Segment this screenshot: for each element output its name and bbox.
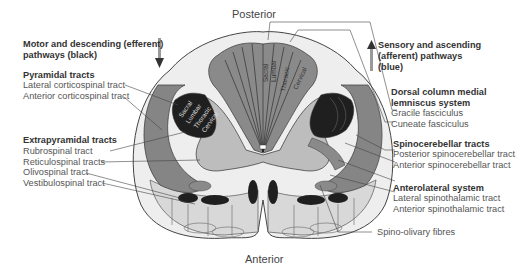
posterior-label: Posterior	[232, 8, 276, 20]
afferent-heading-line2: (afferent) pathways	[378, 51, 462, 62]
lateral-spinothalamic-label: Lateral spinothalamic tract	[393, 193, 500, 204]
vestibulospinal-right	[297, 195, 325, 205]
olivospinal-right	[315, 181, 337, 191]
extrapyramidal-tracts-title: Extrapyramidal tracts	[23, 135, 117, 146]
anterior-spinocerebellar-label: Anterior spinocerebellar tract	[393, 160, 510, 171]
vestibulospinal-label: Vestibulospinal tract	[23, 178, 105, 189]
lateral-corticospinal-label: Lateral corticospinal tract	[23, 80, 125, 91]
anterior-label: Anterior	[245, 253, 284, 265]
rubrospinal-label: Rubrospinal tract	[23, 146, 92, 157]
segment-label-sacral: Sacral	[262, 63, 269, 82]
reticulospinal-left	[178, 193, 198, 203]
olivospinal-left	[189, 181, 211, 191]
anterior-corticospinal-left	[248, 180, 258, 204]
olivospinal-label: Olivospinal tract	[23, 167, 88, 178]
anterior-corticospinal-right	[268, 180, 278, 204]
ascending-arrow	[367, 40, 376, 71]
efferent-heading-line1: Motor and descending (efferent)	[23, 39, 163, 50]
afferent-heading-line1: Sensory and ascending	[378, 40, 481, 51]
cuneate-fasciculus-label: Cuneate fasciculus	[391, 119, 469, 130]
spino-olivary-label: Spino-olivary fibres	[377, 227, 455, 238]
posterior-spinocerebellar-label: Posterior spinocerebellar tract	[393, 149, 515, 160]
afferent-heading-line3: (blue)	[378, 62, 403, 73]
dcml-title-line1: Dorsal column medial	[391, 87, 486, 98]
segment-label-lumbar: Lumbar	[270, 59, 277, 82]
anterior-corticospinal-label: Anterior corticospinal tract	[23, 91, 129, 102]
efferent-heading-line2: pathways (black)	[23, 50, 97, 61]
vestibulospinal-left	[201, 195, 229, 205]
gracile-fasciculus-label: Gracile fasciculus	[391, 108, 463, 119]
central-canal	[260, 145, 266, 149]
reticulospinal-right	[328, 193, 348, 203]
anterior-spinothalamic-label: Anterior spinothalamic tract	[393, 204, 504, 215]
